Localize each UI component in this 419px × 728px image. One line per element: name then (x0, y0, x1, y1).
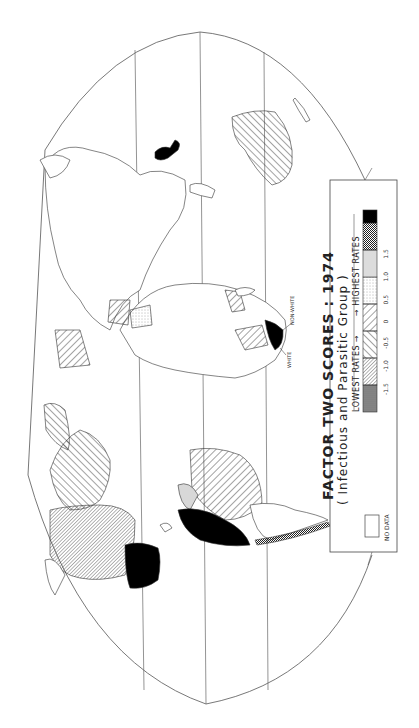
swatch-0-to-0.5 (363, 277, 377, 304)
map-subtitle: ( Infectious and Parasitic Group ) (336, 274, 350, 505)
australia (232, 111, 292, 185)
tick: 1.0 (382, 272, 389, 282)
usa (50, 505, 135, 579)
lowest-rates-text: LOWEST RATES (352, 345, 361, 412)
landmasses (40, 98, 330, 595)
swatch-minus-0.5-to-0 (363, 304, 377, 331)
non-white-annotation: NON-WHITE (289, 296, 295, 325)
africa-stipple (130, 305, 152, 328)
map-title: FACTOR TWO SCORES : 1974 (320, 251, 336, 500)
legend-highest-label: → HIGHEST RATES (352, 236, 361, 316)
white-annotation: WHITE (286, 352, 292, 368)
arrow-right-icon: → (352, 309, 361, 316)
tick: 1.5 (382, 249, 389, 259)
legend-tick-labels: -1.5 -1.0 -0.5 0 0.5 1.0 1.5 (382, 249, 389, 395)
europe-hatched (55, 330, 90, 368)
no-data-swatch (365, 515, 379, 537)
swatch-minus-1.0-to-0.5 (363, 331, 377, 358)
swatch-1.0-to-1.5 (363, 223, 377, 250)
tick: 0 (382, 320, 389, 324)
swatch-lt-minus-1.5 (363, 385, 377, 412)
japan (155, 140, 179, 160)
arrow-left-icon: → (352, 335, 361, 342)
no-data-label: NO DATA (383, 514, 390, 541)
swatch-gt-1.5 (363, 210, 377, 223)
new-zealand (293, 98, 310, 122)
highest-rates-text: HIGHEST RATES (352, 236, 361, 306)
indonesia (190, 183, 215, 198)
tick: 0.5 (382, 295, 389, 305)
tick: -1.0 (382, 360, 389, 372)
tick: -1.5 (382, 383, 389, 395)
tick: -0.5 (382, 337, 389, 349)
swatch-minus-1.5-to-1.0 (363, 358, 377, 385)
legend-lowest-label: LOWEST RATES → (352, 335, 361, 412)
middle-east (108, 300, 130, 325)
cuba (160, 523, 172, 532)
mexico-central-america (125, 543, 160, 588)
swatch-0.5-to-1.0 (363, 250, 377, 277)
legend-swatches (363, 210, 377, 412)
